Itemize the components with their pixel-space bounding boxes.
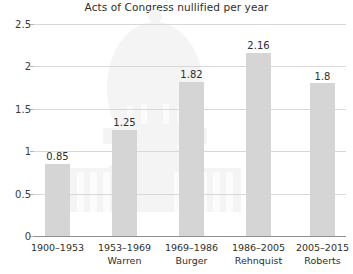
bar-value-1969-1986: 1.82	[162, 69, 222, 80]
xtick-justice: Roberts	[285, 254, 353, 267]
bar-1900-1953	[45, 164, 70, 236]
xtick-justice: Burger	[154, 254, 230, 267]
gridline-2	[34, 66, 346, 67]
x-axis-line	[34, 236, 346, 237]
xtick-period: 2005–2015	[285, 241, 353, 254]
ytick-label-1: 1	[0, 146, 31, 157]
ytick-label-2: 2	[0, 61, 31, 72]
xtick-period: 1900–1953	[20, 241, 96, 254]
bar-2005-2015	[310, 83, 335, 236]
bar-value-2005-2015: 1.8	[293, 71, 353, 82]
bar-value-1900-1953: 0.85	[28, 151, 88, 162]
plot-area	[34, 24, 346, 236]
xtick-justice: Warren	[87, 254, 163, 267]
xtick-period: 1953–1969	[87, 241, 163, 254]
xtick-period: 1969–1986	[154, 241, 230, 254]
xtick-1969-1986: 1969–1986 Burger	[154, 241, 230, 267]
bar-chart: Acts of Congress nullified per year	[0, 0, 353, 274]
bar-1953-1969	[112, 130, 137, 236]
chart-title: Acts of Congress nullified per year	[0, 1, 353, 13]
gridline-2.5	[34, 24, 346, 25]
bar-1986-2005	[246, 53, 271, 236]
ytick-label-1.5: 1.5	[0, 103, 31, 114]
ytick-label-0: 0	[0, 231, 31, 242]
bar-1969-1986	[179, 82, 204, 236]
bar-value-1986-2005: 2.16	[229, 40, 289, 51]
bar-value-1953-1969: 1.25	[95, 117, 155, 128]
ytick-label-2.5: 2.5	[0, 19, 31, 30]
xtick-2005-2015: 2005–2015 Roberts	[285, 241, 353, 267]
xtick-1953-1969: 1953–1969 Warren	[87, 241, 163, 267]
xtick-1900-1953: 1900–1953	[20, 241, 96, 254]
ytick-label-0.5: 0.5	[0, 188, 31, 199]
